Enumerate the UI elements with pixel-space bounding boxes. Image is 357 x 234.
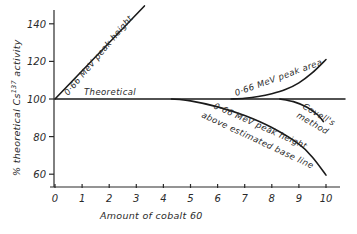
y-tick-label: 60 xyxy=(33,169,46,180)
annotation-peak-height: 0·66 MeV peak height xyxy=(62,13,135,97)
x-tick-label: 7 xyxy=(242,193,249,204)
annotation-theoretical: Theoretical xyxy=(84,87,136,97)
annotations: 0·66 MeV peak height Theoretical 0·66 Me… xyxy=(62,13,338,171)
y-axis-label: % theoretical Cs137 activity xyxy=(10,39,22,176)
x-tick-label: 4 xyxy=(160,193,166,204)
x-tick-label: 2 xyxy=(106,193,112,204)
x-tick-label: 9 xyxy=(296,193,302,204)
x-tick-label: 5 xyxy=(187,193,193,204)
y-tick-label: 140 xyxy=(27,19,46,30)
x-axis-label: Amount of cobalt 60 xyxy=(99,210,203,221)
chart: 0123456789106080100120140 0·66 MeV peak … xyxy=(0,0,357,234)
x-tick-label: 8 xyxy=(269,193,275,204)
y-tick-label: 80 xyxy=(33,132,46,143)
y-tick-label: 120 xyxy=(27,56,46,67)
y-tick-label: 100 xyxy=(27,94,46,105)
x-tick-label: 6 xyxy=(214,193,220,204)
x-tick-label: 10 xyxy=(320,193,333,204)
y-axis-label-superscript: 137 xyxy=(10,79,18,93)
ticks: 0123456789106080100120140 xyxy=(27,19,332,204)
y-axis-label-prefix: % theoretical Cs xyxy=(11,93,22,176)
x-tick-label: 3 xyxy=(133,193,139,204)
x-tick-label: 0 xyxy=(52,193,58,204)
y-axis-label-suffix: activity xyxy=(11,39,22,80)
x-tick-label: 1 xyxy=(79,193,85,204)
